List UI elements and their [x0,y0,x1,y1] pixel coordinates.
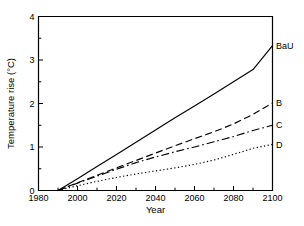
x-axis-tick-labels: 1980200020202040206020802100 [28,193,282,203]
x-tick-label: 2100 [262,193,282,203]
x-tick-label: 2080 [223,193,243,203]
series-labels: BaUBCD [276,41,294,150]
y-tick-label: 4 [29,12,34,22]
axis-frame [39,17,273,191]
series-line-c [58,125,273,190]
x-tick-label: 2040 [145,193,165,203]
x-axis-title: Year [146,204,165,215]
series-lines [58,46,273,191]
series-line-d [58,144,273,190]
x-tick-label: 2060 [184,193,204,203]
y-axis-tick-labels: 01234 [29,12,34,196]
series-label-b: B [276,98,282,108]
x-tick-label: 2000 [67,193,87,203]
series-label-c: C [276,120,283,130]
chart-canvas: 01234 1980200020202040206020802100 BaUBC… [0,0,304,226]
series-line-bau [58,46,273,191]
y-tick-label: 1 [29,142,34,152]
y-axis-title: Temperature rise (°C) [5,58,16,149]
y-axis-major-ticks [39,17,44,191]
y-tick-label: 3 [29,55,34,65]
series-label-d: D [276,140,283,150]
series-line-b [58,103,273,190]
x-tick-label: 2020 [106,193,126,203]
temperature-rise-chart: 01234 1980200020202040206020802100 BaUBC… [0,0,304,226]
y-tick-label: 2 [29,99,34,109]
series-label-bau: BaU [276,41,294,51]
x-tick-label: 1980 [28,193,48,203]
